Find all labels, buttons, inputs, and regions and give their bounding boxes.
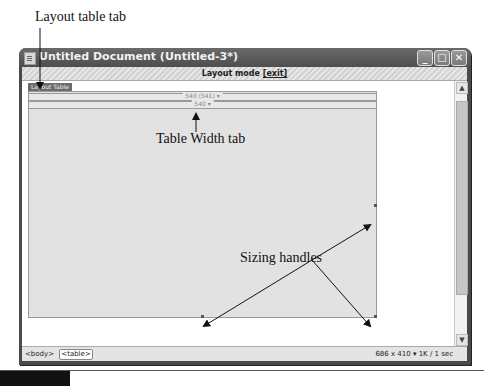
annotation-arrows xyxy=(0,0,484,386)
caption-divider xyxy=(0,370,484,371)
caption-block xyxy=(0,371,70,386)
